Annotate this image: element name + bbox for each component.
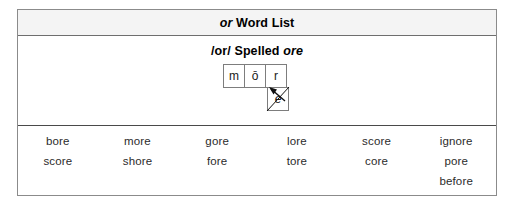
list-item: tore xyxy=(257,155,337,167)
list-item: core xyxy=(337,155,417,167)
phoneme-subtitle-emphasis: ore xyxy=(283,44,303,58)
grapheme-box-m: m xyxy=(223,64,245,88)
list-item: pore xyxy=(416,155,496,167)
list-item: gore xyxy=(177,135,257,147)
list-item: lore xyxy=(257,135,337,147)
table-row: score shore fore tore core pore xyxy=(18,151,496,171)
word-list-worksheet: or Word List /or/ Spelled ore m ō r e xyxy=(17,9,497,196)
worksheet-title-row: or Word List xyxy=(18,10,496,36)
grapheme-box-long-o: ō xyxy=(244,64,266,88)
list-item: fore xyxy=(177,155,257,167)
table-row: bore more gore lore score ignore xyxy=(18,131,496,151)
phoneme-section: /or/ Spelled ore m ō r e xyxy=(18,36,496,126)
list-item: before xyxy=(416,175,496,187)
grapheme-box-r: r xyxy=(265,64,287,88)
phoneme-subtitle-prefix: /or/ Spelled xyxy=(211,44,283,58)
phoneme-subtitle: /or/ Spelled ore xyxy=(18,36,496,58)
page-title-rest: Word List xyxy=(232,16,294,30)
sound-spelling-boxes-diagram: m ō r e xyxy=(223,64,313,122)
grapheme-box-silent-e: e xyxy=(267,87,289,111)
list-item: ignore xyxy=(416,135,496,147)
word-list: bore more gore lore score ignore score s… xyxy=(18,126,496,191)
page-title: or Word List xyxy=(220,16,295,30)
list-item: score xyxy=(18,155,98,167)
list-item: bore xyxy=(18,135,98,147)
grapheme-box-row: m ō r xyxy=(223,64,287,88)
table-row: before xyxy=(18,171,496,191)
list-item: shore xyxy=(98,155,178,167)
list-item: more xyxy=(98,135,178,147)
page-title-emphasis: or xyxy=(220,16,233,30)
list-item: score xyxy=(337,135,417,147)
